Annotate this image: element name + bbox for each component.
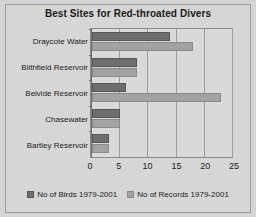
legend-label: No of Records 1979-2001 bbox=[137, 190, 229, 199]
bar-group bbox=[92, 106, 232, 132]
x-axis-tick-label: 10 bbox=[143, 161, 153, 171]
bar bbox=[92, 58, 137, 67]
legend-swatch-icon bbox=[127, 191, 134, 198]
x-axis-labels: 0510152025 bbox=[90, 161, 234, 173]
y-axis-tick-label: Belvide Reservoir bbox=[8, 80, 88, 106]
bar bbox=[92, 68, 137, 77]
bar-rows bbox=[92, 29, 232, 157]
bar bbox=[92, 134, 109, 143]
x-axis-tick-label: 15 bbox=[171, 161, 181, 171]
x-axis-tick-label: 5 bbox=[116, 161, 121, 171]
y-axis-tick bbox=[89, 29, 92, 30]
y-axis-tick bbox=[89, 80, 92, 81]
x-axis-tick-label: 0 bbox=[87, 161, 92, 171]
y-axis-tick-label: Draycote Water bbox=[8, 28, 88, 54]
y-axis-tick-label: Blithfield Reservoir bbox=[8, 54, 88, 80]
x-axis-tick-label: 20 bbox=[200, 161, 210, 171]
bar bbox=[92, 109, 120, 118]
bar bbox=[92, 144, 109, 153]
chart-legend: No of Birds 1979-2001No of Records 1979-… bbox=[0, 190, 256, 199]
legend-swatch-icon bbox=[27, 191, 34, 198]
bar-group bbox=[92, 80, 232, 106]
bar bbox=[92, 83, 126, 92]
bar-group bbox=[92, 55, 232, 81]
y-axis-tick bbox=[89, 55, 92, 56]
y-axis-tick bbox=[89, 106, 92, 107]
plot-area bbox=[90, 28, 233, 158]
legend-label: No of Birds 1979-2001 bbox=[37, 190, 117, 199]
bar-group bbox=[92, 29, 232, 55]
bar-group bbox=[92, 131, 232, 157]
chart-title: Best Sites for Red-throated Divers bbox=[0, 8, 256, 19]
bar bbox=[92, 42, 193, 51]
x-axis-tick-label: 25 bbox=[229, 161, 239, 171]
y-axis-tick bbox=[89, 131, 92, 132]
bar bbox=[92, 119, 120, 128]
bar bbox=[92, 32, 170, 41]
y-axis-labels: Draycote WaterBlithfield ReservoirBelvid… bbox=[8, 28, 88, 158]
y-axis-tick-label: Bartley Reservoir bbox=[8, 132, 88, 158]
gridline bbox=[232, 29, 233, 157]
y-axis-tick-label: Chasewater bbox=[8, 106, 88, 132]
bar bbox=[92, 93, 221, 102]
legend-item[interactable]: No of Records 1979-2001 bbox=[127, 190, 229, 199]
chart-figure: Best Sites for Red-throated Divers Drayc… bbox=[0, 0, 256, 217]
legend-item[interactable]: No of Birds 1979-2001 bbox=[27, 190, 117, 199]
